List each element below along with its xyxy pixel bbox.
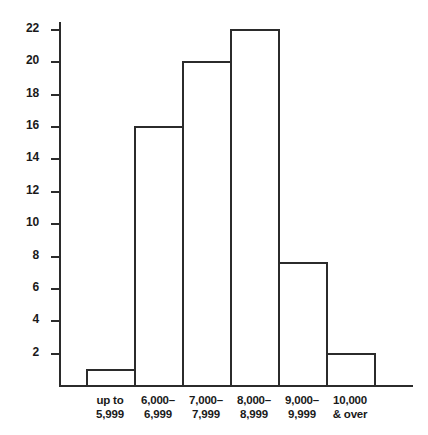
category-label-line-1: 6,000–: [141, 394, 175, 406]
y-axis-tick-mark: [51, 256, 59, 258]
y-axis-tick-label: 10: [5, 215, 39, 230]
y-axis-tick-mark: [51, 353, 59, 355]
y-axis-tick-mark: [51, 191, 59, 193]
category-label-line-1: up to: [96, 394, 123, 406]
y-axis-line: [59, 22, 61, 387]
histogram-bar: [86, 369, 136, 387]
category-label-line-2: & over: [320, 407, 380, 421]
histogram-bar: [230, 29, 280, 387]
category-label-line-1: 10,000: [333, 394, 367, 406]
y-axis-tick-label: 20: [5, 53, 39, 68]
y-axis-tick-mark: [51, 94, 59, 96]
y-axis-tick-label: 16: [5, 118, 39, 133]
histogram-bar: [326, 353, 376, 387]
histogram-bar: [134, 126, 184, 387]
y-axis-tick-mark: [51, 223, 59, 225]
category-label-line-1: 8,000–: [237, 394, 271, 406]
y-axis-tick-label: 2: [5, 345, 39, 360]
y-axis-tick-mark: [51, 126, 59, 128]
category-label-line-1: 9,000–: [285, 394, 319, 406]
y-axis-tick-label: 14: [5, 150, 39, 165]
y-axis-tick-label: 18: [5, 86, 39, 101]
histogram-bar: [182, 61, 232, 387]
histogram-bar: [278, 262, 328, 387]
y-axis-tick-label: 8: [5, 248, 39, 263]
y-axis-tick-label: 22: [5, 21, 39, 36]
y-axis-tick-label: 12: [5, 183, 39, 198]
y-axis-tick-mark: [51, 288, 59, 290]
y-axis-tick-label: 4: [5, 312, 39, 327]
y-axis-tick-label: 6: [5, 280, 39, 295]
y-axis-tick-mark: [51, 158, 59, 160]
histogram-chart: 246810121416182022 up to5,9996,000–6,999…: [0, 0, 428, 435]
y-axis-tick-mark: [51, 61, 59, 63]
y-axis-tick-mark: [51, 29, 59, 31]
category-label-line-1: 7,000–: [189, 394, 223, 406]
y-axis-tick-mark: [51, 320, 59, 322]
x-axis-category-label: 10,000& over: [320, 393, 380, 421]
